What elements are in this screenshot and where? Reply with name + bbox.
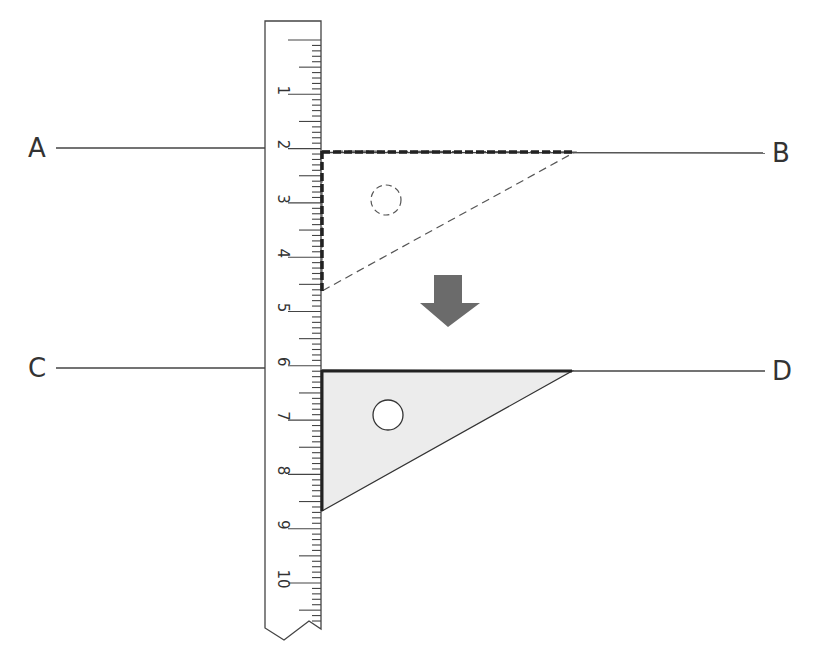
ruler-number: 6 [274, 357, 292, 367]
ruler-number: 4 [274, 248, 292, 258]
ruler-number: 2 [274, 140, 292, 150]
label-b: B [772, 138, 790, 168]
ruler-number: 5 [274, 303, 292, 313]
down-arrow-icon [420, 275, 480, 327]
set-square-hole-dashed [371, 185, 401, 215]
set-square-hole [373, 400, 403, 430]
label-a: A [28, 133, 46, 163]
diagram-canvas: A B C D 12345678910 [0, 0, 815, 663]
ruler-number: 7 [274, 411, 292, 421]
set-square-after [322, 370, 572, 511]
ruler-number: 10 [274, 569, 292, 588]
set-square-before [322, 151, 575, 291]
ruler-number: 1 [274, 86, 292, 96]
label-c: C [28, 353, 46, 383]
ruler-number: 3 [274, 194, 292, 204]
label-d: D [772, 356, 792, 386]
ruler-number: 9 [274, 520, 292, 530]
ruler-number: 8 [274, 466, 292, 476]
ruler: 12345678910 [265, 21, 321, 640]
